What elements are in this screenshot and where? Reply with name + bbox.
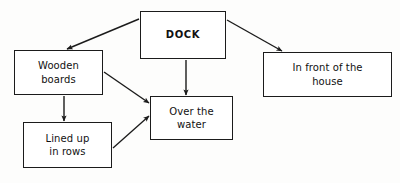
node-over-the-water-label: Over the water <box>166 105 216 131</box>
node-lined-up-in-rows-label: Lined up in rows <box>43 132 93 158</box>
node-wooden-boards[interactable]: Wooden boards <box>14 50 103 95</box>
node-in-front-of-the-house[interactable]: In front of the house <box>263 52 392 97</box>
node-wooden-boards-label: Wooden boards <box>35 59 82 85</box>
edge-dock-to-in-front-of-the-house <box>227 20 282 51</box>
node-dock[interactable]: DOCK <box>140 11 226 59</box>
edge-wooden-boards-to-over-the-water <box>104 72 149 103</box>
node-dock-label: DOCK <box>163 28 203 41</box>
edge-lined-up-in-rows-to-over-the-water <box>113 116 149 148</box>
node-in-front-of-the-house-label: In front of the house <box>289 61 365 87</box>
edge-dock-to-wooden-boards <box>67 19 139 49</box>
concept-map-diagram: DOCK Wooden boards In front of the house… <box>0 0 400 183</box>
node-over-the-water[interactable]: Over the water <box>150 96 233 140</box>
node-lined-up-in-rows[interactable]: Lined up in rows <box>23 122 112 168</box>
